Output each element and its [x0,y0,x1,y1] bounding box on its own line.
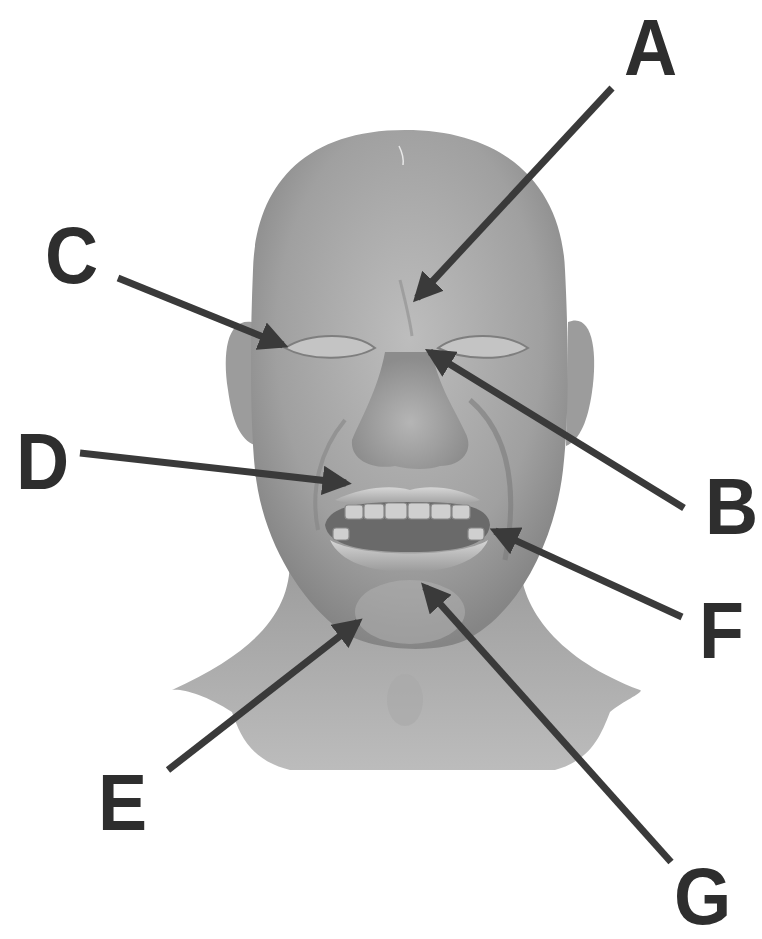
label-f: F [699,591,744,671]
label-e: E [98,763,147,843]
label-a: A [624,8,677,88]
right-ear [566,320,594,446]
label-g: G [674,857,731,937]
label-d: D [16,422,69,502]
label-c: C [45,216,98,296]
left-ear [226,322,255,445]
label-b: B [705,467,758,547]
throat-shadow [387,674,423,726]
